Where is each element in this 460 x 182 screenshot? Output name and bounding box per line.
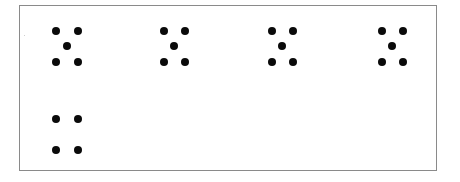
dot	[388, 42, 396, 50]
dot	[74, 58, 82, 66]
dot	[52, 115, 60, 123]
dot	[74, 146, 82, 154]
dot	[181, 58, 189, 66]
scan-speck	[24, 35, 25, 36]
dot	[268, 27, 276, 35]
dot	[289, 58, 297, 66]
dot	[399, 58, 407, 66]
dot	[63, 42, 71, 50]
dot	[181, 27, 189, 35]
dot	[268, 58, 276, 66]
dot	[52, 146, 60, 154]
dot	[278, 42, 286, 50]
dot	[289, 27, 297, 35]
dot	[378, 27, 386, 35]
dot	[52, 27, 60, 35]
dot	[52, 58, 60, 66]
dot	[74, 115, 82, 123]
dot	[399, 27, 407, 35]
dot	[160, 27, 168, 35]
dot	[378, 58, 386, 66]
dot	[160, 58, 168, 66]
dot	[170, 42, 178, 50]
dot	[74, 27, 82, 35]
